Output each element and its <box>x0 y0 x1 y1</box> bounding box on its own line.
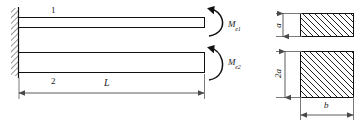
lower-section-width-label: b <box>324 101 329 110</box>
figure-canvas: 1 2 Me1 Me2 L a <box>0 0 363 126</box>
lower-section-dimension-group <box>0 0 363 126</box>
lower-section-height-label: 2a <box>274 66 283 82</box>
